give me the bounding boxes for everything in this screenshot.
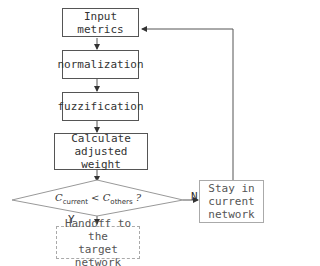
node-stay-in-current-network: Stay in current network xyxy=(199,180,264,223)
node-handoff-line-1: Handoff to the xyxy=(57,217,139,243)
node-normalization: normalization xyxy=(62,50,139,79)
node-calculate-line-2: adjusted weight xyxy=(55,145,147,171)
less-than-operator: < xyxy=(91,192,99,203)
question-mark: ? xyxy=(136,192,141,203)
node-stay-line-3: network xyxy=(208,208,254,221)
node-input-metrics-label: Input metrics xyxy=(63,10,138,36)
node-input-metrics: Input metrics xyxy=(62,8,139,37)
node-normalization-label: normalization xyxy=(57,58,143,71)
node-fuzzification-label: fuzzification xyxy=(57,100,143,113)
node-calculate-adjusted-weight: Calculate adjusted weight xyxy=(54,133,148,170)
node-handoff-line-2: target network xyxy=(57,243,139,266)
node-fuzzification: fuzzification xyxy=(62,92,139,121)
node-stay-line-2: current xyxy=(208,195,254,208)
cost-symbol-current: C xyxy=(55,192,63,203)
arrow-stay-to-input xyxy=(142,29,233,180)
node-calculate-line-1: Calculate xyxy=(71,132,131,145)
node-handoff: Handoff to the target network xyxy=(56,226,140,259)
edge-label-no: N xyxy=(191,190,198,203)
subscript-others: others xyxy=(110,198,132,206)
node-stay-line-1: Stay in xyxy=(208,182,254,195)
subscript-current: current xyxy=(63,198,88,206)
decision-condition: Ccurrent < Cothers ? xyxy=(55,192,141,206)
